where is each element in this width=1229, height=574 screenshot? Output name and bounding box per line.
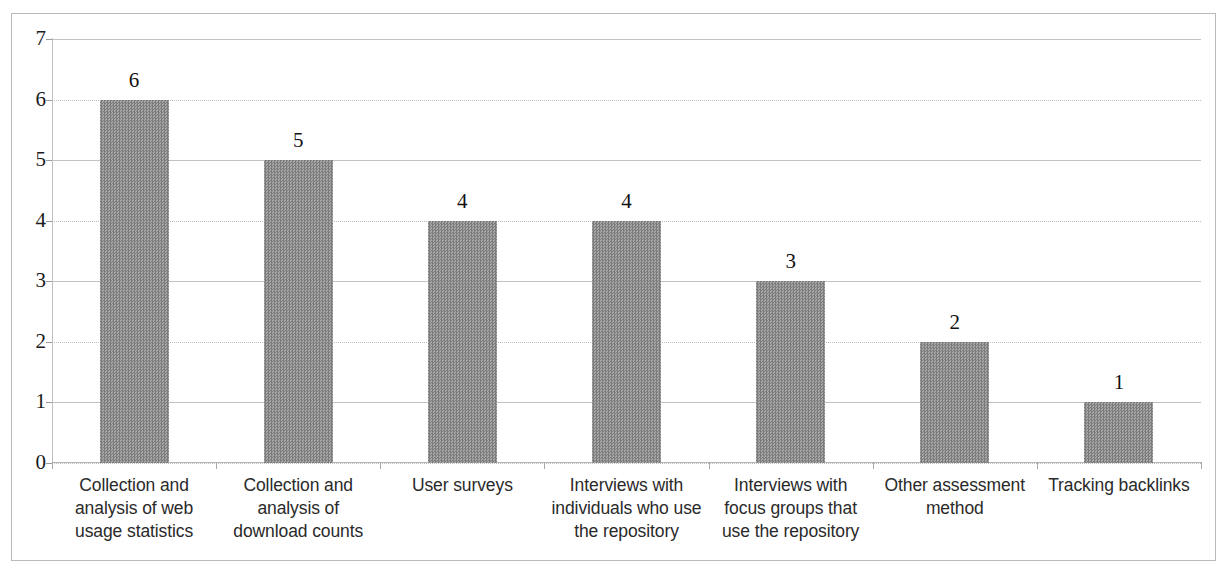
y-tick-mark-7 bbox=[46, 39, 52, 40]
category-label: Other assessmentmethod bbox=[873, 474, 1037, 520]
x-tick-mark bbox=[52, 462, 53, 469]
y-tick-mark-2 bbox=[46, 342, 52, 343]
cat-label-line: individuals who use bbox=[552, 498, 702, 518]
y-tick-label-7: 7 bbox=[12, 28, 46, 49]
bar-value-label: 2 bbox=[950, 312, 961, 333]
x-tick-mark bbox=[709, 462, 710, 469]
y-tick-label-3: 3 bbox=[12, 270, 46, 291]
y-axis-tick-labels: 01234567 bbox=[6, 39, 46, 463]
y-tick-label-6: 6 bbox=[12, 89, 46, 110]
bar bbox=[592, 221, 661, 463]
category-label: User surveys bbox=[380, 474, 544, 497]
chart-figure: 01234567 6544321 Collection andanalysis … bbox=[0, 0, 1229, 574]
category-label: Interviews withfocus groups thatuse the … bbox=[709, 474, 873, 543]
x-axis-category-labels: Collection andanalysis of webusage stati… bbox=[52, 474, 1202, 556]
gridline-5 bbox=[52, 160, 1201, 161]
category-label: Interviews withindividuals who usethe re… bbox=[544, 474, 708, 543]
y-tick-mark-6 bbox=[46, 100, 52, 101]
cat-label-line: use the repository bbox=[722, 521, 859, 541]
gridline-6 bbox=[52, 100, 1201, 102]
y-tick-mark-3 bbox=[46, 281, 52, 282]
bar bbox=[100, 100, 169, 463]
x-tick-mark bbox=[1201, 462, 1202, 469]
cat-label-line: focus groups that bbox=[724, 498, 857, 518]
gridline-0 bbox=[52, 463, 1201, 465]
bar bbox=[756, 281, 825, 463]
bar-value-label: 4 bbox=[621, 191, 632, 212]
plot-area bbox=[52, 39, 1201, 463]
bar-value-label: 3 bbox=[785, 251, 796, 272]
bar-value-label: 1 bbox=[1114, 372, 1125, 393]
y-tick-label-4: 4 bbox=[12, 210, 46, 231]
bar bbox=[264, 160, 333, 463]
y-tick-label-1: 1 bbox=[12, 392, 46, 413]
bar bbox=[920, 342, 989, 463]
bar-value-label: 5 bbox=[293, 130, 304, 151]
cat-label-line: Collection and bbox=[243, 475, 353, 495]
bar bbox=[428, 221, 497, 463]
cat-label-line: Tracking backlinks bbox=[1048, 475, 1190, 495]
cat-label-line: download counts bbox=[233, 521, 363, 541]
cat-label-line: Interviews with bbox=[570, 475, 683, 495]
bar-value-label: 4 bbox=[457, 191, 468, 212]
y-tick-mark-4 bbox=[46, 221, 52, 222]
cat-label-line: Interviews with bbox=[734, 475, 847, 495]
x-tick-mark bbox=[544, 462, 545, 469]
cat-label-line: Collection and bbox=[79, 475, 189, 495]
y-tick-mark-1 bbox=[46, 402, 52, 403]
cat-label-line: the repository bbox=[574, 521, 679, 541]
category-label: Collection andanalysis of webusage stati… bbox=[52, 474, 216, 543]
bar bbox=[1084, 402, 1153, 463]
cat-label-line: method bbox=[926, 498, 984, 518]
cat-label-line: Other assessment bbox=[885, 475, 1025, 495]
y-tick-label-5: 5 bbox=[12, 149, 46, 170]
cat-label-line: analysis of web bbox=[75, 498, 193, 518]
cat-label-line: usage statistics bbox=[75, 521, 193, 541]
x-tick-mark bbox=[1037, 462, 1038, 469]
y-tick-mark-5 bbox=[46, 160, 52, 161]
cat-label-line: analysis of bbox=[257, 498, 339, 518]
category-label: Tracking backlinks bbox=[1037, 474, 1201, 497]
cat-label-line: User surveys bbox=[412, 475, 513, 495]
y-tick-label-0: 0 bbox=[12, 452, 46, 473]
x-tick-mark bbox=[380, 462, 381, 469]
gridline-7 bbox=[52, 39, 1201, 40]
bar-value-label: 6 bbox=[129, 70, 140, 91]
category-label: Collection andanalysis ofdownload counts bbox=[216, 474, 380, 543]
x-tick-mark bbox=[216, 462, 217, 469]
x-tick-mark bbox=[873, 462, 874, 469]
y-tick-label-2: 2 bbox=[12, 331, 46, 352]
